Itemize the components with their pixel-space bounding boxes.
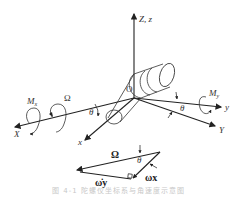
moment-my-label: My bbox=[208, 88, 220, 99]
moment-my: My bbox=[199, 88, 219, 114]
vector-triangle: Ω θ ωx ω̇y bbox=[77, 145, 160, 188]
theta-right-label: θ bbox=[180, 103, 185, 113]
x-axis-body-label: x bbox=[77, 137, 82, 147]
omega-label: Ω bbox=[64, 93, 71, 103]
theta-right: θ bbox=[168, 92, 185, 118]
triangle-omega-label: Ω bbox=[111, 149, 119, 160]
rotor-cylinder bbox=[106, 61, 177, 124]
moment-mx-label: Mx bbox=[26, 96, 38, 107]
z-axis-label: Z, z bbox=[139, 14, 153, 24]
gyroscope-diagram: Z, z X x y Y O Mx bbox=[0, 0, 237, 200]
triangle-theta-label: θ bbox=[137, 155, 142, 165]
theta-left: θ bbox=[89, 104, 98, 117]
rotation-omega: Ω bbox=[49, 93, 71, 132]
figure-caption: 图 4-1 陀螺仪坐标系与角速度示意图 bbox=[0, 185, 237, 195]
y-axis-body-label: y bbox=[224, 102, 229, 112]
y-axis-fixed-label: Y bbox=[219, 125, 225, 135]
theta-left-label: θ bbox=[89, 107, 94, 117]
triangle-omega-x-label: ωx bbox=[145, 172, 157, 183]
z-axis: Z, z bbox=[134, 14, 153, 98]
moment-mx: Mx bbox=[26, 96, 40, 134]
x-axis-fixed-label: X bbox=[13, 129, 20, 139]
